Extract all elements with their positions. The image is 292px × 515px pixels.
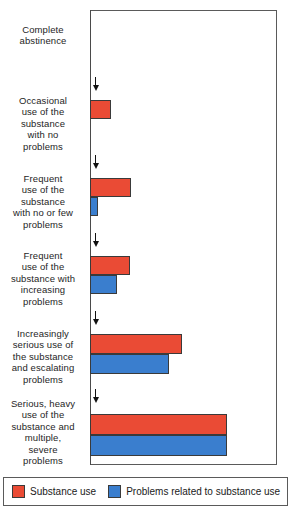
bar-problems-3: [90, 275, 117, 294]
bar-substance-use-2: [90, 178, 131, 197]
bar-problems-5: [90, 435, 227, 456]
down-arrow-icon: [91, 155, 100, 169]
bar-substance-use-5: [90, 414, 227, 435]
down-arrow-icon: [91, 389, 100, 403]
bars-layer: [0, 0, 292, 515]
legend-entry-substance-use: Substance use: [12, 485, 96, 498]
legend-swatch-icon: [12, 485, 25, 498]
bar-problems-0: [90, 38, 91, 56]
bar-substance-use-0: [90, 20, 91, 38]
bar-substance-use-3: [90, 256, 130, 275]
legend-label: Problems related to substance use: [126, 486, 280, 497]
substance-use-progression-chart: Complete abstinence Occasional use of th…: [0, 0, 292, 515]
down-arrow-icon: [91, 233, 100, 247]
legend-swatch-icon: [108, 485, 121, 498]
chart-legend: Substance use Problems related to substa…: [3, 477, 288, 506]
down-arrow-icon: [91, 311, 100, 325]
legend-entry-problems: Problems related to substance use: [108, 485, 280, 498]
legend-label: Substance use: [30, 486, 96, 497]
bar-problems-2: [90, 197, 98, 216]
bar-problems-1: [90, 119, 91, 138]
bar-substance-use-4: [90, 334, 182, 354]
bar-substance-use-1: [90, 100, 111, 119]
bar-problems-4: [90, 354, 169, 374]
down-arrow-icon: [91, 77, 100, 91]
